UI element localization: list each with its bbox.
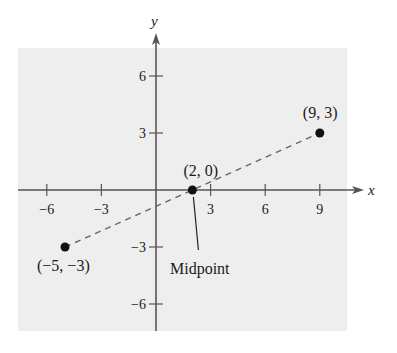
y-tick-label: 6 xyxy=(139,69,146,84)
y-tick-label: −3 xyxy=(131,240,146,255)
x-tick-label: −6 xyxy=(39,202,54,217)
y-tick-label: −6 xyxy=(131,297,146,312)
point-label: (9, 3) xyxy=(303,104,338,122)
midpoint-annotation: Midpoint xyxy=(170,260,230,278)
data-point xyxy=(188,186,197,195)
point-label: (2, 0) xyxy=(183,162,218,180)
y-tick-label: 3 xyxy=(139,126,146,141)
x-tick-label: −3 xyxy=(94,202,109,217)
x-tick-label: 6 xyxy=(262,202,269,217)
data-point xyxy=(61,243,70,252)
coordinate-plane: xy−6−336963−3−6(−5, −3)(2, 0)(9, 3)Midpo… xyxy=(0,0,397,353)
x-tick-label: 3 xyxy=(207,202,214,217)
point-label: (−5, −3) xyxy=(37,257,90,275)
x-tick-label: 9 xyxy=(316,202,323,217)
data-point xyxy=(315,129,324,138)
y-axis-label: y xyxy=(149,13,158,29)
x-axis-label: x xyxy=(367,182,375,198)
